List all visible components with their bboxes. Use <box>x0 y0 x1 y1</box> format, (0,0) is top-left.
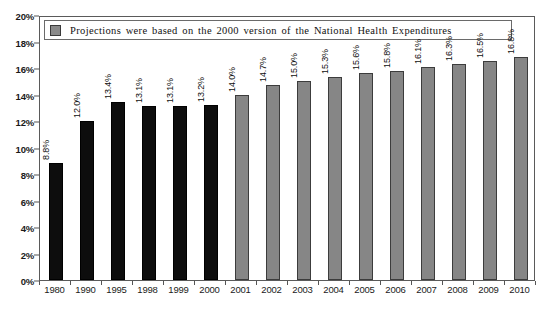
bar-value-label-2003: 15.0% <box>289 53 299 78</box>
x-axis-tick-mark <box>194 281 195 285</box>
x-axis-tick-mark <box>411 281 412 285</box>
y-axis-tick-label: 0% <box>0 276 34 287</box>
bar-2009[interactable] <box>483 61 497 280</box>
y-axis-tick-label: 4% <box>0 223 34 234</box>
x-axis-tick-mark <box>225 281 226 285</box>
x-axis: 1980199019951998199920002001200220032004… <box>39 284 535 306</box>
x-axis-tick-mark <box>163 281 164 285</box>
x-axis-tick-mark <box>349 281 350 285</box>
bar-slot: 13.1% <box>164 17 195 280</box>
x-axis-tick-mark <box>504 281 505 285</box>
bar-2006[interactable] <box>390 71 404 280</box>
bar-2005[interactable] <box>359 73 373 280</box>
y-axis: 20%18%16%14%12%10%8%6%4%2%0% <box>0 0 34 313</box>
x-axis-tick-mark <box>318 281 319 285</box>
bar-1998[interactable] <box>142 106 156 280</box>
x-axis-tick-label: 2002 <box>261 284 281 295</box>
bar-slot: 14.7% <box>257 17 288 280</box>
x-axis-tick-mark <box>380 281 381 285</box>
x-axis-tick-label: 1995 <box>106 284 126 295</box>
y-axis-tick-label: 12% <box>0 117 34 128</box>
x-axis-tick-label: 2005 <box>354 284 374 295</box>
x-axis-tick-mark <box>535 281 536 285</box>
bar-value-label-2002: 14.7% <box>258 57 268 82</box>
bar-2002[interactable] <box>266 85 280 280</box>
bar-value-label-2000: 13.2% <box>196 77 206 102</box>
x-axis-tick-mark <box>132 281 133 285</box>
y-axis-tick-label: 16% <box>0 64 34 75</box>
x-axis-tick-label: 1990 <box>75 284 95 295</box>
x-axis-tick-mark <box>287 281 288 285</box>
bar-slot: 12.0% <box>71 17 102 280</box>
bar-2000[interactable] <box>204 105 218 280</box>
x-axis-tick-label: 1998 <box>137 284 157 295</box>
bar-slot: 13.4% <box>102 17 133 280</box>
bar-value-label-1999: 13.1% <box>165 78 175 103</box>
bar-2008[interactable] <box>452 64 466 280</box>
bar-value-label-2007: 16.1% <box>413 39 423 64</box>
x-axis-tick-mark <box>256 281 257 285</box>
x-axis-tick-label: 2000 <box>199 284 219 295</box>
y-axis-tick-label: 10% <box>0 143 34 154</box>
bar-1999[interactable] <box>173 106 187 280</box>
bar-2007[interactable] <box>421 67 435 280</box>
bar-value-label-1990: 12.0% <box>72 93 82 118</box>
x-axis-tick-label: 2001 <box>230 284 250 295</box>
bar-value-label-2004: 15.3% <box>320 49 330 74</box>
bar-slot: 14.0% <box>226 17 257 280</box>
bar-slot: 13.2% <box>195 17 226 280</box>
bar-value-label-1995: 13.4% <box>103 74 113 99</box>
bar-value-label-1980: 8.8% <box>41 140 51 160</box>
bar-slot: 16.8% <box>505 17 536 280</box>
bar-value-label-2008: 16.3% <box>444 36 454 61</box>
y-axis-tick-label: 6% <box>0 196 34 207</box>
bar-value-label-2005: 15.6% <box>351 45 361 70</box>
x-axis-tick-label: 2006 <box>385 284 405 295</box>
bar-value-label-2010: 16.8% <box>506 29 516 54</box>
x-axis-tick-label: 2003 <box>292 284 312 295</box>
bar-slot: 16.1% <box>412 17 443 280</box>
bar-slot: 16.5% <box>474 17 505 280</box>
bar-slot: 13.1% <box>133 17 164 280</box>
bar-1990[interactable] <box>80 121 94 280</box>
bar-chart: 20%18%16%14%12%10%8%6%4%2%0% Projections… <box>0 0 542 313</box>
bar-2001[interactable] <box>235 95 249 281</box>
x-axis-tick-label: 2004 <box>323 284 343 295</box>
bar-value-label-2006: 15.8% <box>382 43 392 68</box>
x-axis-tick-mark <box>39 281 40 285</box>
y-axis-tick-label: 14% <box>0 90 34 101</box>
bar-2010[interactable] <box>514 57 528 280</box>
bar-1980[interactable] <box>49 163 63 280</box>
x-axis-tick-label: 1980 <box>44 284 64 295</box>
bar-2004[interactable] <box>328 77 342 280</box>
x-axis-tick-label: 2007 <box>416 284 436 295</box>
bar-value-label-2001: 14.0% <box>227 66 237 91</box>
plot-area: Projections were based on the 2000 versi… <box>39 16 535 281</box>
x-axis-tick-mark <box>442 281 443 285</box>
y-axis-tick-label: 2% <box>0 249 34 260</box>
bar-slot: 8.8% <box>40 17 71 280</box>
x-axis-tick-label: 2010 <box>509 284 529 295</box>
bar-value-label-2009: 16.5% <box>475 33 485 58</box>
y-axis-tick-label: 18% <box>0 37 34 48</box>
bar-slot: 15.8% <box>381 17 412 280</box>
bar-2003[interactable] <box>297 81 311 280</box>
x-axis-tick-label: 2008 <box>447 284 467 295</box>
bar-slot: 15.0% <box>288 17 319 280</box>
x-axis-tick-label: 1999 <box>168 284 188 295</box>
x-axis-tick-mark <box>70 281 71 285</box>
bar-slot: 16.3% <box>443 17 474 280</box>
bar-value-label-1998: 13.1% <box>134 78 144 103</box>
x-axis-tick-mark <box>101 281 102 285</box>
x-axis-tick-mark <box>473 281 474 285</box>
y-axis-tick-label: 20% <box>0 11 34 22</box>
bar-slot: 15.6% <box>350 17 381 280</box>
y-axis-tick-label: 8% <box>0 170 34 181</box>
bar-1995[interactable] <box>111 102 125 280</box>
bar-slot: 15.3% <box>319 17 350 280</box>
x-axis-tick-label: 2009 <box>478 284 498 295</box>
